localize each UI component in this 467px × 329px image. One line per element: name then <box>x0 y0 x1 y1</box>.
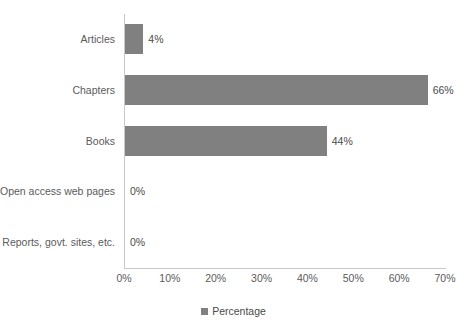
x-axis-tick-4: 40% <box>287 272 327 284</box>
chart-row-chapters: Chapters 66% <box>0 65 467 116</box>
chart-row-articles: Articles 4% <box>0 14 467 65</box>
legend-swatch-icon <box>201 308 208 315</box>
x-axis-tick-3: 30% <box>242 272 282 284</box>
chart-row-books: Books 44% <box>0 116 467 167</box>
bar-value-chapters: 66% <box>433 75 454 105</box>
category-label: Open access web pages <box>0 166 115 217</box>
x-axis-tick-1: 10% <box>150 272 190 284</box>
bar-chapters <box>125 75 428 105</box>
x-axis-tick-0: 0% <box>104 272 144 284</box>
category-label: Articles <box>0 14 115 65</box>
category-label: Chapters <box>0 65 115 116</box>
bar-articles <box>125 24 143 54</box>
x-axis-tick-7: 70% <box>425 272 465 284</box>
legend-label-percentage: Percentage <box>212 305 266 317</box>
category-label: Books <box>0 116 115 167</box>
chart-legend: Percentage <box>0 305 467 317</box>
chart-row-open-access-web-pages: Open access web pages 0% <box>0 166 467 217</box>
x-axis-tick-2: 20% <box>196 272 236 284</box>
bar-value-articles: 4% <box>148 24 163 54</box>
bar-value-open-access-web-pages: 0% <box>130 176 145 206</box>
bar-chart: Articles 4% Chapters 66% Books 44% Open … <box>0 0 467 329</box>
category-label: Reports, govt. sites, etc. <box>0 217 115 268</box>
x-axis-tick-6: 60% <box>379 272 419 284</box>
bar-value-books: 44% <box>332 126 353 156</box>
chart-row-reports-govt-sites: Reports, govt. sites, etc. 0% <box>0 217 467 268</box>
x-axis-line <box>124 268 446 269</box>
x-axis-tick-5: 50% <box>333 272 373 284</box>
bar-books <box>125 126 327 156</box>
bar-value-reports-govt-sites: 0% <box>130 227 145 257</box>
